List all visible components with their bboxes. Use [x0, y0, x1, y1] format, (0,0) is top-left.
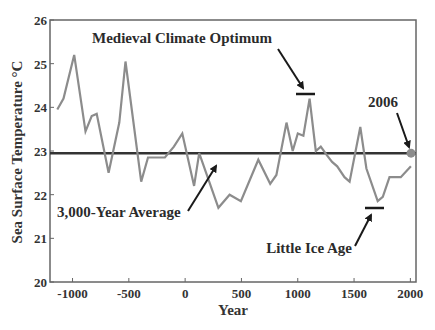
- y-tick-label: 26: [34, 13, 48, 28]
- y-tick-label: 24: [34, 100, 48, 115]
- x-tick-label: 2000: [397, 286, 423, 301]
- y-tick-label: 23: [34, 144, 48, 159]
- x-tick-label: -500: [117, 286, 141, 301]
- annotation-little-ice-age: Little Ice Age: [266, 240, 352, 256]
- marker-2006-dot-icon: [407, 149, 416, 158]
- temperature-chart: -1000-500050010001500200020212223242526 …: [0, 0, 435, 330]
- temperature-line: [57, 55, 411, 208]
- x-tick-label: 1000: [285, 286, 311, 301]
- y-tick-label: 25: [34, 57, 48, 72]
- x-axis-label: Year: [218, 302, 248, 318]
- x-tick-label: 0: [182, 286, 189, 301]
- arrow-icon: [355, 215, 371, 246]
- x-tick-label: -1000: [57, 286, 87, 301]
- y-tick-label: 21: [34, 231, 47, 246]
- arrow-icon: [397, 113, 409, 147]
- data-series: [50, 55, 416, 208]
- y-tick-label: 20: [34, 275, 47, 290]
- y-tick-label: 22: [34, 188, 47, 203]
- arrow-icon: [278, 49, 303, 88]
- annotation-3000-year-average: 3,000-Year Average: [57, 204, 181, 220]
- y-axis-label: Sea Surface Temperature °C: [9, 61, 25, 244]
- x-tick-label: 1500: [341, 286, 367, 301]
- annotation-2006: 2006: [368, 94, 399, 110]
- annotation-medieval-climate-optimum: Medieval Climate Optimum: [92, 30, 272, 46]
- x-tick-label: 500: [232, 286, 252, 301]
